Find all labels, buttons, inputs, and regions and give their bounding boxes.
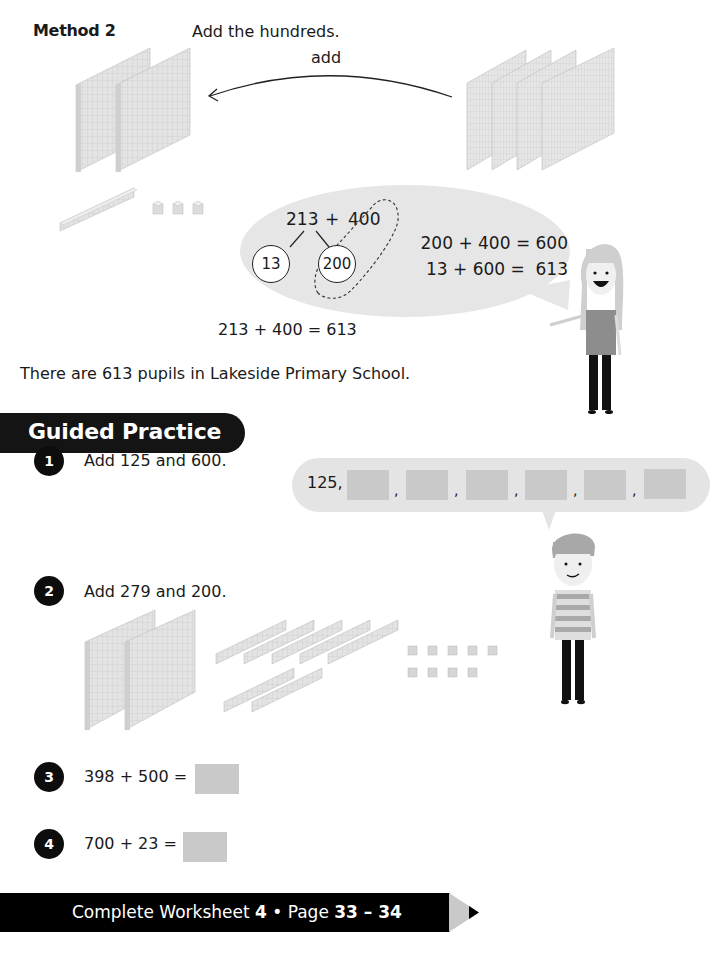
part-hundreds-circle: 200 bbox=[318, 245, 356, 283]
q2-hundreds-blocks-icon bbox=[82, 608, 202, 733]
question-1-number-text: 1 bbox=[44, 453, 54, 469]
question-3-number: 3 bbox=[34, 762, 64, 792]
bubble-line-1: 200 + 400 = 600 bbox=[400, 233, 568, 253]
worksheet-prefix: Complete Worksheet bbox=[72, 902, 255, 922]
comma: , bbox=[573, 482, 577, 498]
question-2-number-text: 2 bbox=[44, 583, 54, 599]
comma: , bbox=[394, 482, 398, 498]
sequence-blank-5[interactable] bbox=[584, 470, 626, 500]
part-ones-circle: 13 bbox=[252, 245, 290, 283]
result-equation: 213 + 400 = 613 bbox=[218, 320, 357, 339]
question-4-answer-box[interactable] bbox=[183, 832, 227, 862]
comma: , bbox=[632, 482, 636, 498]
tens-rod-icon bbox=[58, 185, 138, 235]
part-hundreds-value: 200 bbox=[323, 255, 352, 273]
result-sentence: There are 613 pupils in Lakeside Primary… bbox=[20, 364, 410, 383]
guided-practice-title: Guided Practice bbox=[28, 419, 221, 444]
question-4-text: 700 + 23 = bbox=[84, 834, 177, 853]
sequence-blank-3[interactable] bbox=[466, 470, 508, 500]
sequence-blank-4[interactable] bbox=[525, 470, 567, 500]
boy-character-icon bbox=[545, 528, 605, 708]
worksheet-reference[interactable]: Complete Worksheet 4 • Page 33 – 34 bbox=[72, 902, 402, 922]
question-3-answer-box[interactable] bbox=[195, 764, 239, 794]
worksheet-pages: 33 – 34 bbox=[334, 902, 402, 922]
comma: , bbox=[514, 482, 518, 498]
bubble-line-2: 13 + 600 = 613 bbox=[400, 259, 568, 279]
sequence-start: 125, bbox=[307, 473, 343, 492]
comma: , bbox=[454, 482, 458, 498]
question-2-text: Add 279 and 200. bbox=[84, 582, 227, 601]
worksheet-separator: • Page bbox=[267, 902, 334, 922]
q2-tens-rods-icon bbox=[212, 614, 412, 714]
question-3-text: 398 + 500 = bbox=[84, 767, 187, 786]
pencil-tip-icon bbox=[449, 893, 481, 933]
sequence-blank-2[interactable] bbox=[406, 470, 448, 500]
q2-ones-cubes-icon bbox=[405, 642, 505, 686]
sequence-blank-1[interactable] bbox=[347, 470, 389, 500]
question-4-number: 4 bbox=[34, 829, 64, 859]
hundreds-blocks-right-icon bbox=[464, 45, 624, 175]
hundreds-blocks-left-icon bbox=[72, 45, 212, 180]
question-4-number-text: 4 bbox=[44, 836, 54, 852]
ones-cubes-icon bbox=[150, 200, 212, 220]
worksheet-number: 4 bbox=[255, 902, 267, 922]
sequence-blank-6[interactable] bbox=[644, 469, 686, 499]
question-2-number: 2 bbox=[34, 576, 64, 606]
question-1-text: Add 125 and 600. bbox=[84, 451, 227, 470]
part-ones-value: 13 bbox=[261, 255, 280, 273]
girl-character-icon bbox=[560, 225, 660, 420]
question-1-number: 1 bbox=[34, 446, 64, 476]
question-3-number-text: 3 bbox=[44, 769, 54, 785]
